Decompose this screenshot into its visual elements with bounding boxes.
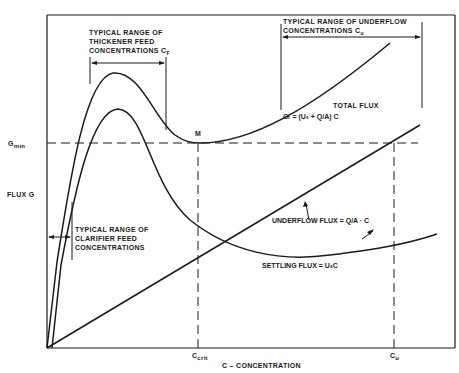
total-flux-label: TOTAL FLUX <box>333 101 379 110</box>
arrowhead <box>91 61 97 65</box>
arrowhead <box>415 35 421 39</box>
y-axis-label: FLUX G <box>7 190 34 199</box>
thickener-range-label: TYPICAL RANGE OF THICKENER FEED CONCENTR… <box>89 28 170 58</box>
underflow-flux-label: UNDERFLOW FLUX = Q/A · C <box>272 217 369 224</box>
flux-diagram <box>0 0 459 373</box>
total-flux-equation: Gₜ = (Uₛ + Q/A) C <box>283 113 339 121</box>
clarifier-range-label: TYPICAL RANGE OF CLARIFIER FEED CONCENTR… <box>75 225 149 252</box>
x-axis-label: C – CONCENTRATION <box>222 361 301 370</box>
arrowhead <box>159 61 165 65</box>
underflow-range-label: TYPICAL RANGE OF UNDERFLOW CONCENTRATION… <box>283 17 407 38</box>
point-m-label: M <box>195 129 201 138</box>
cu-label: Cu <box>390 351 399 363</box>
total-flux-curve <box>47 43 390 348</box>
arrowhead <box>303 201 308 207</box>
ccrit-label: Ccrit <box>192 351 208 363</box>
gmin-label: Gmin <box>8 139 25 151</box>
settling-flux-label: SETTLING FLUX = UₛC <box>262 262 338 270</box>
arrowhead <box>48 235 54 239</box>
